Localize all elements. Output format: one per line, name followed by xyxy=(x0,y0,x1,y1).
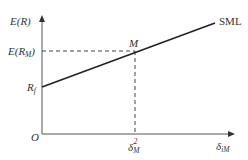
risk-free-label: Rf xyxy=(26,81,37,95)
market-point-label: M xyxy=(128,37,139,49)
sml-line xyxy=(42,23,215,87)
y-axis-label: E(R) xyxy=(9,15,31,28)
x-axis-label: δiM xyxy=(216,140,230,154)
sml-label: SML xyxy=(219,15,242,27)
market-variance-label: δM2 xyxy=(128,137,140,155)
origin-label: O xyxy=(31,131,39,143)
sml-diagram: E(R) E(RM) Rf O M SML δM2 δiM xyxy=(0,0,248,160)
market-return-label: E(RM) xyxy=(7,45,35,59)
